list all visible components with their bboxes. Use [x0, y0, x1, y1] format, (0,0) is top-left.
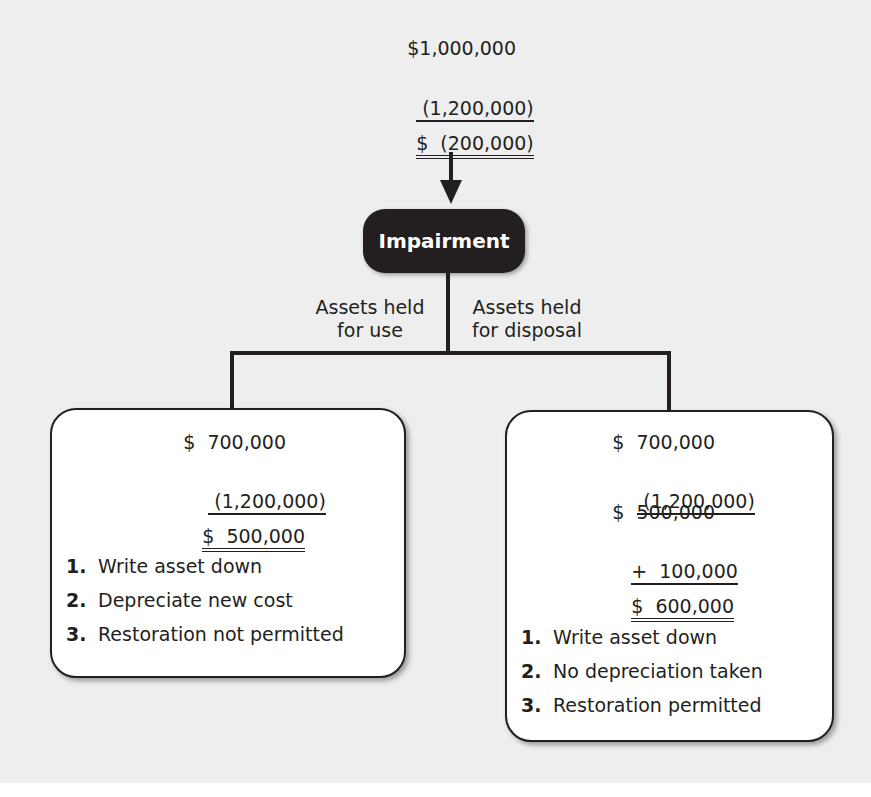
step-item: 3.Restoration not permitted — [66, 617, 344, 651]
right-calc-line-1: $ 700,000 — [595, 430, 715, 454]
held-for-disposal-steps: 1.Write asset down 2.No depreciation tak… — [521, 620, 763, 722]
step-item: 3.Restoration permitted — [521, 688, 763, 722]
arrow-shaft — [449, 152, 453, 182]
right-calc-line-3: $ 500,000 — [595, 500, 715, 524]
left-branch-connector — [230, 351, 234, 411]
trunk-connector — [446, 273, 450, 353]
impairment-node: Impairment — [363, 209, 525, 273]
step-item: 2.No depreciation taken — [521, 654, 763, 688]
down-arrow-icon — [440, 180, 462, 204]
top-calc-line-1: $1,000,000 — [394, 36, 516, 60]
right-calc-line-5: $ 600,000 — [631, 595, 734, 622]
step-item: 1.Write asset down — [521, 620, 763, 654]
step-item: 1.Write asset down — [66, 549, 344, 583]
held-for-use-box: $ 700,000 (1,200,000) $ 500,000 1.Write … — [50, 408, 406, 678]
branch-label-held-for-disposal: Assets held for disposal — [456, 296, 598, 342]
impairment-label: Impairment — [378, 229, 509, 253]
step-item: 2.Depreciate new cost — [66, 583, 344, 617]
left-calc-line-1: $ 700,000 — [166, 430, 286, 454]
right-branch-connector — [667, 351, 671, 413]
horizontal-connector — [230, 351, 671, 355]
held-for-use-steps: 1.Write asset down 2.Depreciate new cost… — [66, 549, 344, 651]
branch-label-held-for-use: Assets held for use — [300, 296, 440, 342]
left-calc-line-3: $ 500,000 — [202, 525, 305, 552]
held-for-disposal-box: $ 700,000 (1,200,000) $ 500,000 + 100,00… — [505, 410, 834, 742]
top-calc-line-3: $ (200,000) — [416, 132, 534, 159]
